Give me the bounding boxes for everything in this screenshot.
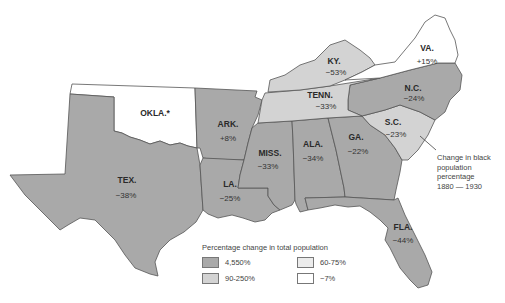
label-nc: N.C. xyxy=(405,83,422,93)
legend-item-high: 4,550% xyxy=(202,257,287,268)
label-miss: MISS. xyxy=(258,148,281,158)
value-ark: +8% xyxy=(220,134,236,143)
value-miss: −33% xyxy=(258,162,279,171)
label-ala: ALA. xyxy=(303,139,323,149)
label-la: LA. xyxy=(223,179,237,189)
legend-swatch-mid xyxy=(202,273,219,284)
legend-item-negative: −7% xyxy=(297,273,382,284)
label-okla: OKLA.* xyxy=(140,108,170,118)
value-ga: −22% xyxy=(348,147,369,156)
legend-item-low: 60-75% xyxy=(297,257,382,268)
value-va: +15% xyxy=(417,57,438,66)
label-sc: S.C. xyxy=(385,117,402,127)
legend-item-mid: 90-250% xyxy=(202,273,287,284)
legend-title: Percentage change in total population xyxy=(202,243,382,252)
annotation-line-1: Change in black xyxy=(437,153,505,163)
label-fla: FLA. xyxy=(394,222,413,232)
annotation-line-3: percentage xyxy=(437,172,505,182)
map-legend: Percentage change in total population 4,… xyxy=(202,243,382,284)
legend-label: 90-250% xyxy=(225,274,255,283)
value-tenn: −33% xyxy=(316,102,337,111)
annotation-line-4: 1880 — 1930 xyxy=(437,182,505,192)
label-tex: TEX. xyxy=(118,175,137,185)
value-fla: −44% xyxy=(393,236,414,245)
value-sc: −23% xyxy=(386,130,407,139)
black-population-annotation: Change in black population percentage 18… xyxy=(437,153,505,191)
legend-label: −7% xyxy=(320,274,335,283)
label-ky: KY. xyxy=(327,56,340,66)
value-ala: −34% xyxy=(303,154,324,163)
value-ky: −53% xyxy=(326,68,347,77)
legend-label: 4,550% xyxy=(225,258,250,267)
label-tenn: TENN. xyxy=(307,90,333,100)
legend-swatch-negative xyxy=(297,273,314,284)
label-va: VA. xyxy=(420,43,434,53)
value-tex: −38% xyxy=(116,191,137,200)
label-ark: ARK. xyxy=(218,119,239,129)
legend-swatch-low xyxy=(297,257,314,268)
legend-label: 60-75% xyxy=(320,258,346,267)
legend-swatch-high xyxy=(202,257,219,268)
value-nc: −24% xyxy=(404,94,425,103)
value-la: −25% xyxy=(220,194,241,203)
annotation-line-2: population xyxy=(437,163,505,173)
label-ga: GA. xyxy=(348,132,363,142)
